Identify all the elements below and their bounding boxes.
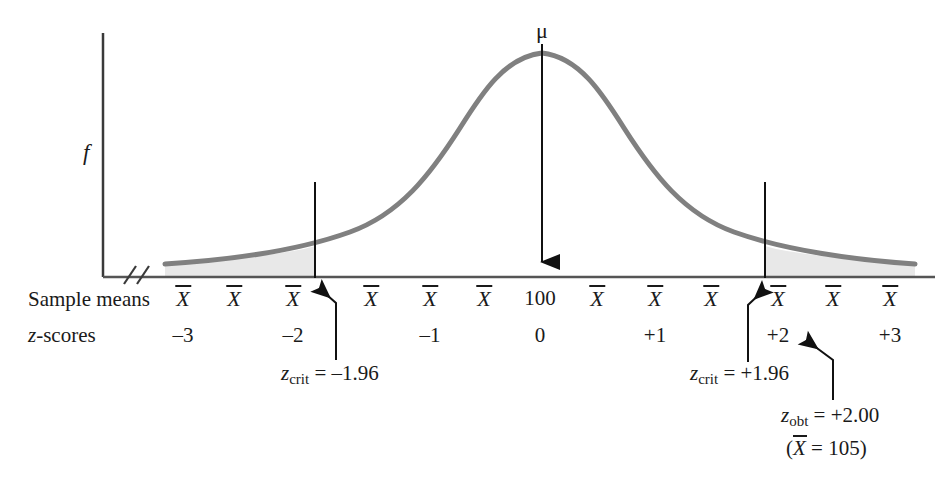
x-bar-symbol: X: [286, 288, 299, 310]
tick-label-xbar: X: [423, 288, 436, 310]
x-bar-obt-symbol: X: [793, 438, 806, 459]
tick-label-xbar: X: [648, 288, 661, 310]
tick-label-xbar: X: [286, 288, 299, 310]
tick-label-zscore: 0: [535, 325, 546, 346]
tick-label-xbar: X: [826, 288, 839, 310]
x-bar-obt-open-paren: (: [786, 436, 793, 460]
tick-label-zscore: +1: [644, 325, 666, 346]
tick-label-xbar: X: [477, 288, 490, 310]
axis-break-icon-stroke-2: [137, 266, 149, 284]
normal-distribution-figure: f μ Sample means z-scores X–3XX–2XX–1X10…: [0, 0, 951, 477]
z-crit-lower-subscript: crit: [289, 371, 309, 387]
mu-label: μ: [536, 20, 548, 42]
tick-label-zscore: –2: [283, 325, 304, 346]
z-obt-annotation: zobt = +2.00: [781, 405, 879, 426]
z-obt-subscript: obt: [789, 413, 808, 429]
x-bar-symbol: X: [364, 288, 377, 310]
tick-label-xbar: X: [771, 288, 784, 310]
z-obt-var: z: [781, 403, 789, 427]
tick-label-xbar: X: [364, 288, 377, 310]
x-bar-obt-value: = 105): [811, 436, 867, 460]
x-bar-symbol: X: [771, 288, 784, 310]
x-bar-symbol: X: [590, 288, 603, 310]
x-bar-symbol: X: [648, 288, 661, 310]
x-bar-symbol: X: [423, 288, 436, 310]
z-crit-lower-value: = –1.96: [314, 361, 378, 385]
tick-label-xbar: X: [227, 288, 240, 310]
tick-label-xbar: X: [176, 288, 189, 310]
z-crit-lower-annotation: zcrit = –1.96: [281, 363, 379, 384]
tick-label-zscore: –1: [420, 325, 441, 346]
tick-label-xbar: X: [590, 288, 603, 310]
x-bar-symbol: X: [704, 288, 717, 310]
tick-label-xbar: X: [883, 288, 896, 310]
z-crit-upper-var: z: [690, 361, 698, 385]
sample-means-row-label: Sample means: [28, 289, 150, 310]
normal-curve: [165, 53, 915, 264]
tick-label-xbar: X: [704, 288, 717, 310]
z-crit-lower-leader: [319, 288, 336, 360]
y-axis-label: f: [83, 141, 89, 164]
x-bar-symbol: X: [477, 288, 490, 310]
tick-label-zscore: +2: [767, 325, 789, 346]
z-crit-upper-value: = +1.96: [723, 361, 789, 385]
x-bar-symbol: X: [883, 288, 896, 310]
z-crit-upper-annotation: zcrit = +1.96: [690, 363, 789, 384]
tick-label-center-value: 100: [524, 288, 556, 309]
z-obt-value: = +2.00: [814, 403, 880, 427]
axis-break-icon-stroke-1: [124, 266, 136, 284]
z-crit-upper-subscript: crit: [698, 371, 718, 387]
z-scores-row-label: z-scores: [28, 325, 96, 346]
tick-label-zscore: +3: [879, 325, 901, 346]
x-bar-symbol: X: [826, 288, 839, 310]
x-bar-symbol: X: [176, 288, 189, 310]
z-crit-upper-leader: [748, 289, 765, 362]
x-bar-obt-annotation: (X = 105): [786, 438, 867, 459]
x-bar-symbol: X: [227, 288, 240, 310]
tick-label-zscore: –3: [173, 325, 194, 346]
z-crit-lower-var: z: [281, 361, 289, 385]
z-obt-leader: [806, 340, 833, 400]
